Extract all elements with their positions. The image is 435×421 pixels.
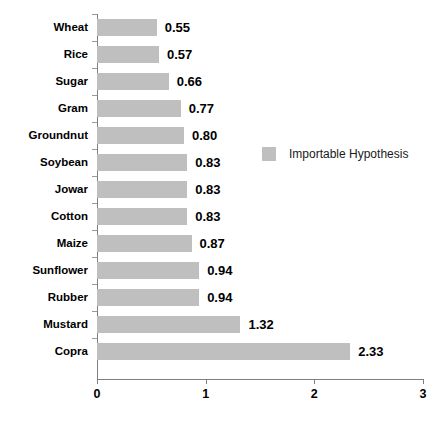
bar-row: Copra2.33	[0, 338, 435, 365]
y-axis-tick	[92, 41, 97, 42]
category-label: Sunflower	[0, 257, 88, 284]
y-axis-tick	[92, 230, 97, 231]
bar-wheat[interactable]	[97, 19, 157, 36]
x-axis-tick	[423, 379, 424, 384]
y-axis-tick	[92, 284, 97, 285]
bar-row: Wheat0.55	[0, 14, 435, 41]
category-label: Soybean	[0, 149, 88, 176]
y-axis-tick	[92, 311, 97, 312]
y-axis-tick	[92, 203, 97, 204]
bar-value-label: 0.77	[189, 95, 214, 122]
bar-soybean[interactable]	[97, 154, 187, 171]
category-label: Wheat	[0, 14, 88, 41]
bar-value-label: 0.83	[195, 176, 220, 203]
bar-row: Maize0.87	[0, 230, 435, 257]
bar-row: Groundnut0.80	[0, 122, 435, 149]
category-label: Groundnut	[0, 122, 88, 149]
bar-groundnut[interactable]	[97, 127, 184, 144]
category-label: Mustard	[0, 311, 88, 338]
category-label: Cotton	[0, 203, 88, 230]
category-label: Rice	[0, 41, 88, 68]
category-label: Sugar	[0, 68, 88, 95]
bar-maize[interactable]	[97, 235, 192, 252]
x-axis-tick-label: 1	[191, 387, 221, 401]
bar-row: Cotton0.83	[0, 203, 435, 230]
y-axis-tick	[92, 176, 97, 177]
y-axis-tick	[92, 149, 97, 150]
y-axis-tick	[92, 14, 97, 15]
bar-row: Jowar0.83	[0, 176, 435, 203]
bar-row: Rubber0.94	[0, 284, 435, 311]
chart-legend: Importable Hypothesis	[262, 147, 408, 161]
category-label: Copra	[0, 338, 88, 365]
bar-value-label: 0.55	[165, 14, 190, 41]
bar-value-label: 0.83	[195, 203, 220, 230]
bar-value-label: 0.80	[192, 122, 217, 149]
bar-value-label: 1.32	[248, 311, 273, 338]
bar-copra[interactable]	[97, 343, 350, 360]
category-label: Jowar	[0, 176, 88, 203]
x-axis-line	[97, 379, 424, 380]
bar-mustard[interactable]	[97, 316, 240, 333]
bar-gram[interactable]	[97, 100, 181, 117]
bar-value-label: 0.83	[195, 149, 220, 176]
category-label: Maize	[0, 230, 88, 257]
x-axis-tick	[206, 379, 207, 384]
bar-rice[interactable]	[97, 46, 159, 63]
bar-row: Sugar0.66	[0, 68, 435, 95]
y-axis-tick	[92, 95, 97, 96]
y-axis-tick	[92, 257, 97, 258]
y-axis-tick	[92, 122, 97, 123]
bar-value-label: 2.33	[358, 338, 383, 365]
bar-row: Mustard1.32	[0, 311, 435, 338]
bar-chart: Wheat0.55Rice0.57Sugar0.66Gram0.77Ground…	[0, 0, 435, 421]
bar-row: Rice0.57	[0, 41, 435, 68]
bar-value-label: 0.57	[167, 41, 192, 68]
category-label: Rubber	[0, 284, 88, 311]
bar-value-label: 0.94	[207, 284, 232, 311]
bar-cotton[interactable]	[97, 208, 187, 225]
legend-swatch-icon	[262, 147, 276, 161]
bar-sugar[interactable]	[97, 73, 169, 90]
bar-jowar[interactable]	[97, 181, 187, 198]
bar-row: Sunflower0.94	[0, 257, 435, 284]
y-axis-tick	[92, 338, 97, 339]
bar-value-label: 0.94	[207, 257, 232, 284]
bar-row: Gram0.77	[0, 95, 435, 122]
bar-rubber[interactable]	[97, 289, 199, 306]
x-axis-tick	[314, 379, 315, 384]
category-label: Gram	[0, 95, 88, 122]
bar-value-label: 0.87	[200, 230, 225, 257]
legend-item-label: Importable Hypothesis	[289, 147, 408, 161]
y-axis-tick	[92, 68, 97, 69]
x-axis-tick-label: 3	[408, 387, 435, 401]
x-axis-tick	[97, 379, 98, 384]
bar-value-label: 0.66	[177, 68, 202, 95]
plot-area: Wheat0.55Rice0.57Sugar0.66Gram0.77Ground…	[0, 0, 435, 421]
x-axis-tick-label: 2	[299, 387, 329, 401]
bar-sunflower[interactable]	[97, 262, 199, 279]
x-axis-tick-label: 0	[82, 387, 112, 401]
